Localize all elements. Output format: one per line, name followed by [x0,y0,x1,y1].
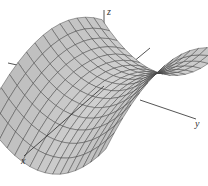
x-axis-label: x [20,155,26,166]
saddle-surface-figure: z x y [0,0,208,186]
z-axis-label: z [106,6,111,17]
y-axis-label: y [194,118,200,129]
y-axis-front [140,100,196,119]
saddle-surface [0,17,208,174]
